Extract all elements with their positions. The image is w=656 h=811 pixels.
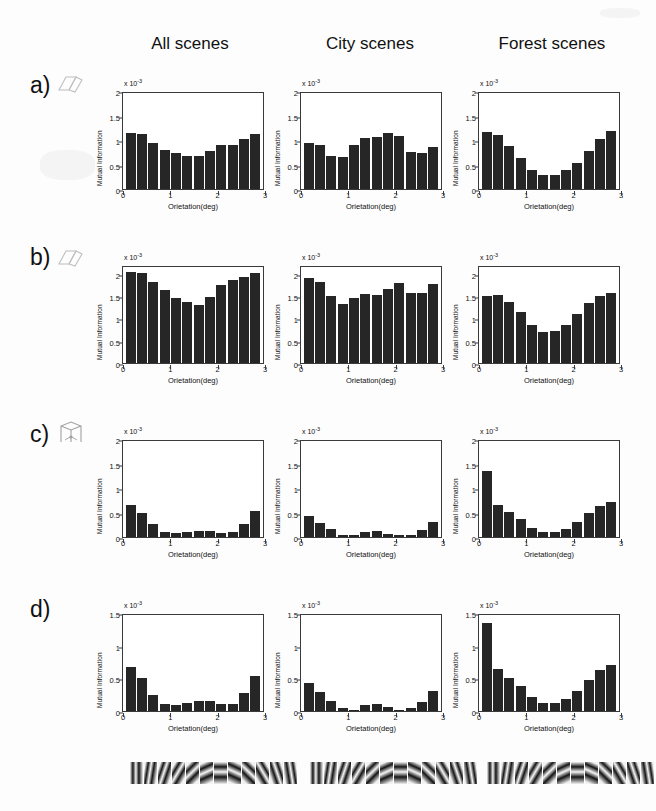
bar <box>160 704 170 711</box>
bar <box>239 277 249 363</box>
bar <box>171 533 181 537</box>
bar <box>360 705 370 711</box>
bar-series <box>123 267 263 363</box>
plot-area: 00.511.520123 <box>122 440 264 538</box>
bar <box>205 701 215 711</box>
y-axis-label: Mutual Information <box>452 478 459 534</box>
bar <box>504 512 514 537</box>
x-axis-tick-mark <box>218 713 219 717</box>
x-axis-tick-mark <box>123 365 124 369</box>
gabor-patch-icon <box>585 762 598 784</box>
bar <box>304 143 314 189</box>
bar <box>372 704 382 711</box>
bar <box>360 294 370 363</box>
bar-series <box>123 93 263 189</box>
bar <box>538 532 548 537</box>
gabor-patch-icon <box>613 762 626 784</box>
bar <box>482 471 492 537</box>
x-axis-label: Orietation(deg) <box>300 376 442 385</box>
bar <box>194 531 204 537</box>
plot-area: 00.511.50123 <box>300 614 442 712</box>
axis-multiplier: x 10-3 <box>124 252 142 261</box>
plot-area: 00.511.520123 <box>122 92 264 190</box>
bar <box>326 156 336 189</box>
bar <box>304 278 314 363</box>
bar <box>148 282 158 363</box>
bar <box>595 139 605 189</box>
gabor-patch-icon <box>450 762 463 784</box>
bar <box>194 156 204 189</box>
bar <box>304 516 314 537</box>
bar <box>338 708 348 711</box>
plot-area: 00.511.520123 <box>478 266 620 364</box>
bar <box>326 701 336 711</box>
column-header-forest-scenes: Forest scenes <box>462 34 642 54</box>
bar <box>406 152 416 189</box>
gabor-patch-icon <box>529 762 542 784</box>
bar <box>349 145 359 189</box>
bar <box>160 290 170 364</box>
gabor-patch-icon <box>408 762 421 784</box>
bar <box>160 532 170 537</box>
x-axis-tick-mark <box>574 191 575 195</box>
bar-series <box>479 441 619 537</box>
plot-panel-c-all: x 10-300.511.520123Mutual InformationOri… <box>78 426 270 564</box>
bar <box>126 505 136 537</box>
x-axis-tick-mark <box>301 713 302 717</box>
bar <box>383 289 393 363</box>
bar <box>228 704 238 711</box>
y-axis-label: Mutual Information <box>96 304 103 360</box>
bar <box>383 133 393 189</box>
bar <box>315 692 325 711</box>
bar <box>584 513 594 537</box>
bar <box>326 529 336 537</box>
x-axis-tick-mark <box>479 539 480 543</box>
bar <box>527 697 537 711</box>
bar <box>216 285 226 363</box>
axis-multiplier: x 10-3 <box>302 78 320 87</box>
y-axis-label: Mutual Information <box>274 304 281 360</box>
gabor-patch-icon <box>571 762 584 784</box>
bar-series <box>479 267 619 363</box>
x-axis-tick-mark <box>526 365 527 369</box>
axis-multiplier: x 10-3 <box>302 426 320 435</box>
bar <box>205 531 215 537</box>
y-axis-label: Mutual Information <box>96 478 103 534</box>
gabor-patch-icon <box>214 762 227 784</box>
bar <box>595 296 605 363</box>
bar <box>606 131 616 189</box>
x-axis-tick-mark <box>170 365 171 369</box>
bar <box>182 156 192 189</box>
bar <box>383 707 393 711</box>
gabor-patch-icon <box>436 762 449 784</box>
bar <box>338 157 348 189</box>
x-axis-tick-mark <box>123 539 124 543</box>
plot-area: 00.511.520123 <box>300 440 442 538</box>
bar <box>595 506 605 537</box>
bar <box>171 153 181 189</box>
bar <box>228 532 238 537</box>
bar <box>126 133 136 189</box>
bar <box>561 170 571 189</box>
bar <box>394 283 404 363</box>
x-axis-tick-mark <box>218 191 219 195</box>
bar <box>595 670 605 711</box>
bar <box>482 132 492 189</box>
x-axis-label: Orietation(deg) <box>300 202 442 211</box>
x-axis-tick-mark <box>574 539 575 543</box>
bar <box>349 535 359 537</box>
y-axis-label: Mutual Information <box>96 130 103 186</box>
x-axis-tick-mark <box>621 365 622 369</box>
bar <box>148 143 158 189</box>
gabor-patch-icon <box>200 762 213 784</box>
bar <box>239 524 249 537</box>
bar <box>572 691 582 711</box>
bar <box>315 282 325 363</box>
bar <box>216 145 226 189</box>
plot-panel-b-city: x 10-300.511.520123Mutual InformationOri… <box>256 252 448 390</box>
bar <box>417 702 427 711</box>
bar <box>561 325 571 363</box>
bar <box>482 296 492 363</box>
bar <box>182 532 192 537</box>
x-axis-label: Orietation(deg) <box>122 724 264 733</box>
